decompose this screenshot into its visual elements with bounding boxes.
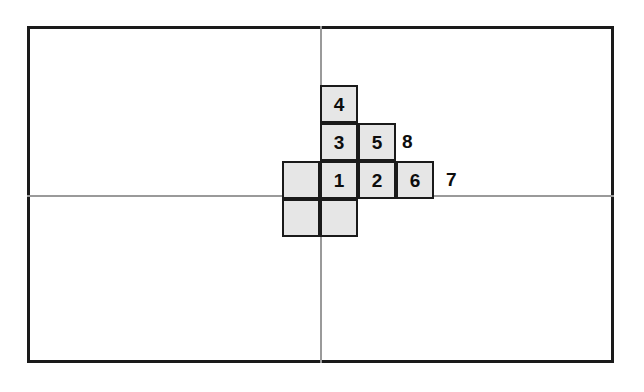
diagram-canvas: 435126 87 [0,0,644,392]
grid-cell-5[interactable]: 5 [358,123,396,161]
grid-cell-empty[interactable] [282,161,320,199]
grid-cell-2[interactable]: 2 [358,161,396,199]
outside-label-7: 7 [446,170,457,189]
grid-cell-6[interactable]: 6 [396,161,434,199]
numbered-cell-grid: 435126 [0,0,644,392]
outside-label-8: 8 [402,132,413,151]
grid-cell-empty[interactable] [282,199,320,237]
grid-cell-3[interactable]: 3 [320,123,358,161]
grid-cell-1[interactable]: 1 [320,161,358,199]
grid-cell-empty[interactable] [320,199,358,237]
grid-cell-4[interactable]: 4 [320,85,358,123]
